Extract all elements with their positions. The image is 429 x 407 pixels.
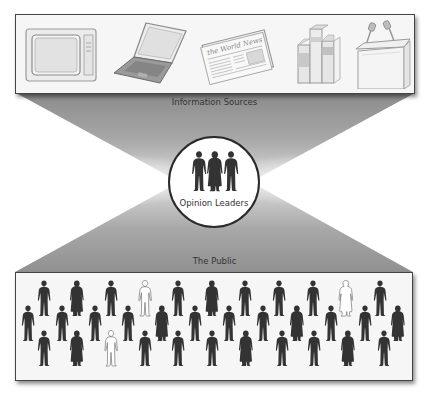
two-step-flow-diagram: the World News [0,0,429,407]
public-man-icon [305,278,323,322]
highlighted-public-man-icon [103,328,121,372]
public-woman-icon [340,328,358,372]
public-man-icon [170,328,188,372]
public-man-icon [237,278,255,322]
books-icon [294,23,344,85]
public-man-icon [323,303,341,347]
public-man-icon [376,328,394,372]
information-sources-panel: the World News [15,14,415,94]
public-man-icon [204,328,222,372]
public-woman-icon [204,278,222,322]
television-icon [24,25,100,85]
public-man-icon [187,303,205,347]
laptop-icon [112,21,188,87]
public-man-icon [306,328,324,372]
public-man-icon [120,303,138,347]
public-man-icon [271,278,289,322]
public-man-icon [170,278,188,322]
public-man-icon [274,328,292,372]
public-woman-icon [238,328,256,372]
public-man-icon [255,303,273,347]
opinion-leaders-circle: Opinion Leaders [168,136,260,228]
public-woman-icon [69,328,87,372]
information-sources-label: Information Sources [0,97,429,107]
newspaper-icon: the World News [200,27,276,85]
opinion-leaders-label: Opinion Leaders [170,198,258,208]
public-man-icon [357,303,375,347]
public-man-icon [103,278,121,322]
opinion-leader-man-icon [222,150,240,194]
public-man-icon [36,328,54,372]
public-man-icon [36,278,54,322]
public-man-icon [221,303,239,347]
highlighted-public-man-icon [137,278,155,322]
the-public-label: The Public [0,256,429,266]
podium-icon [354,19,412,89]
public-man-icon [137,328,155,372]
